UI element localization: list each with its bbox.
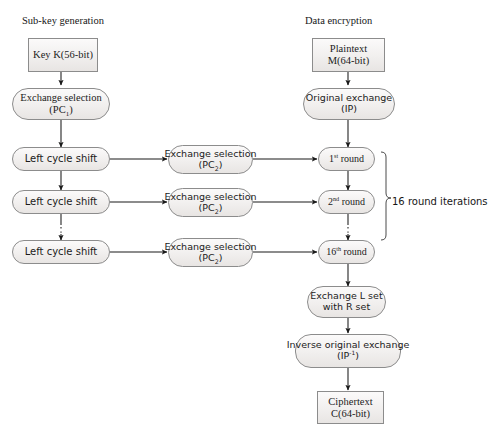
brace-label-16-round-iterations: 16 round iterations [392, 196, 488, 207]
node-plaintext-line1: Plaintext [330, 43, 367, 55]
node-pc1-line1: Exchange selection [20, 92, 101, 104]
node-pc1[interactable]: Exchange selection (PC1) [12, 88, 110, 120]
node-plaintext[interactable]: Plaintext M(64-bit) [312, 38, 385, 72]
node-round-1-label: 1st round [329, 153, 364, 164]
node-left-cycle-shift-3-label: Left cycle shift [25, 246, 98, 257]
node-round-1[interactable]: 1st round [318, 147, 375, 171]
node-pc2-b[interactable]: Exchange selection (PC2) [168, 188, 253, 217]
node-exchange-l-with-r-line2: with R set [323, 302, 370, 313]
node-left-cycle-shift-3[interactable]: Left cycle shift [12, 240, 110, 264]
node-ciphertext[interactable]: Ciphertext C(64-bit) [317, 391, 384, 424]
node-left-cycle-shift-2-label: Left cycle shift [25, 196, 98, 207]
node-left-cycle-shift-1-label: Left cycle shift [25, 153, 98, 164]
column-header-sub-key-generation: Sub-key generation [22, 15, 104, 26]
node-pc2-c[interactable]: Exchange selection (PC2) [168, 238, 253, 267]
node-pc2-a[interactable]: Exchange selection (PC2) [168, 145, 253, 174]
node-ip-line2: (IP) [341, 104, 357, 115]
node-left-cycle-shift-1[interactable]: Left cycle shift [12, 147, 110, 171]
column-header-data-encryption: Data encryption [305, 15, 372, 26]
node-inverse-original-exchange-line2: (IP-1) [337, 351, 359, 362]
node-ip[interactable]: Original exchange (IP) [303, 88, 395, 120]
node-pc1-line2: (PC1) [49, 104, 72, 116]
node-inverse-original-exchange[interactable]: Inverse original exchange (IP-1) [295, 334, 401, 368]
node-pc2-a-line2: (PC2) [199, 160, 223, 171]
node-ciphertext-line2: C(64-bit) [331, 408, 370, 420]
brace-16-rounds [381, 152, 391, 240]
des-flowchart: Sub-key generation Data encryption Key K… [0, 0, 488, 439]
node-round-2-label: 2nd round [328, 196, 365, 207]
node-left-cycle-shift-2[interactable]: Left cycle shift [12, 190, 110, 214]
node-pc2-b-line2: (PC2) [199, 203, 223, 214]
node-exchange-l-with-r[interactable]: Exchange L set with R set [307, 286, 386, 318]
node-plaintext-line2: M(64-bit) [328, 55, 369, 67]
node-round-16-label: 16th round [326, 246, 367, 257]
node-round-16[interactable]: 16th round [318, 240, 375, 264]
node-ciphertext-line1: Ciphertext [328, 396, 372, 408]
node-key-line1: Key K(56-bit) [33, 49, 93, 61]
node-round-2[interactable]: 2nd round [318, 190, 375, 214]
node-key[interactable]: Key K(56-bit) [28, 38, 98, 72]
node-pc2-c-line2: (PC2) [199, 253, 223, 264]
